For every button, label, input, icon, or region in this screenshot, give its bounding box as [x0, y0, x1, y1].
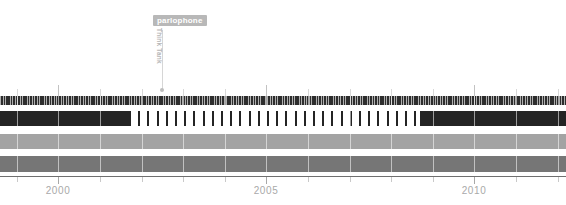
top-tick-2008: [391, 89, 392, 96]
axis-tick-2008: [391, 177, 392, 182]
top-tick-2011: [516, 89, 517, 96]
series-light-gray-track[interactable]: [0, 134, 566, 149]
top-tick-2001: [100, 89, 101, 96]
timeline-bands: [0, 96, 566, 172]
axis-tick-2001: [100, 177, 101, 182]
chart-canvas: parlophone Think Tank 200020052010: [0, 0, 566, 205]
axis-tick-labels: 200020052010: [0, 184, 566, 200]
annotation-vertical-label-think-tank: Think Tank: [154, 28, 164, 68]
top-tick-2012: [558, 89, 559, 96]
series-mid-gray-track[interactable]: [0, 156, 566, 172]
series-hatched-track[interactable]: [0, 96, 566, 105]
axis-tick-2005: [266, 177, 267, 184]
axis-tick-2003: [183, 177, 184, 182]
axis-tick-2006: [308, 177, 309, 182]
top-tick-2002: [142, 89, 143, 96]
top-tick-2006: [308, 89, 309, 96]
top-tick-2007: [350, 89, 351, 96]
axis-tick-2012: [558, 177, 559, 182]
axis-label-2005: 2005: [254, 184, 279, 198]
axis-tick-2004: [225, 177, 226, 182]
top-tick-2000: [58, 85, 59, 96]
axis-tick-1999: [17, 177, 18, 182]
top-tick-2003: [183, 89, 184, 96]
top-tick-2004: [225, 89, 226, 96]
top-tick-2009: [433, 89, 434, 96]
axis-tick-marks: [0, 177, 566, 184]
contract-segment-solid-0[interactable]: [0, 111, 129, 126]
series-contract-track[interactable]: [0, 111, 566, 126]
top-tick-marks: [0, 84, 566, 96]
contract-segment-solid-2[interactable]: [420, 111, 566, 126]
top-tick-2005: [266, 85, 267, 96]
axis-tick-2007: [350, 177, 351, 182]
axis-tick-2010: [474, 177, 475, 184]
axis-tick-2009: [433, 177, 434, 182]
top-tick-1999: [17, 89, 18, 96]
annotation-badge-parlophone[interactable]: parlophone: [153, 15, 207, 26]
contract-segment-dashed-1[interactable]: [129, 111, 420, 126]
axis-tick-2002: [142, 177, 143, 182]
axis-label-2010: 2010: [462, 184, 487, 198]
axis-tick-2000: [58, 177, 59, 184]
axis-tick-2011: [516, 177, 517, 182]
top-tick-2010: [474, 85, 475, 96]
axis-label-2000: 2000: [46, 184, 71, 198]
